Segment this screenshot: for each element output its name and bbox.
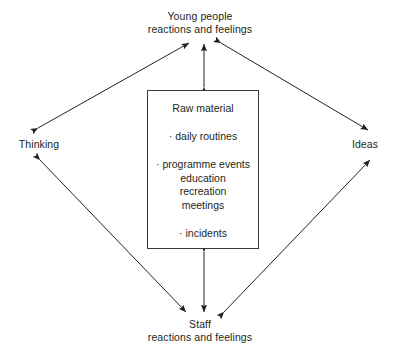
spacer xyxy=(148,212,258,227)
raw-material-item-incidents: · incidents xyxy=(148,227,258,241)
node-young-people-line2: reactions and feelings xyxy=(0,23,400,36)
node-young-people-line1: Young people xyxy=(0,10,400,23)
raw-material-item-daily-routines: · daily routines xyxy=(148,130,258,144)
node-staff-line2: reactions and feelings xyxy=(0,331,400,344)
raw-material-box: Raw material · daily routines · programm… xyxy=(147,90,259,249)
raw-material-item-programme-events: · programme events xyxy=(148,158,258,172)
node-staff: Staff reactions and feelings xyxy=(0,318,400,344)
node-ideas-label: Ideas xyxy=(330,138,400,151)
raw-material-subitem-meetings: meetings xyxy=(148,199,258,213)
raw-material-title: Raw material xyxy=(148,102,258,116)
spacer xyxy=(148,143,258,158)
raw-material-subitem-recreation: recreation xyxy=(148,185,258,199)
bullet-icon: · xyxy=(156,158,160,170)
raw-material-item-label: incidents xyxy=(185,227,226,239)
raw-material-subitem-education: education xyxy=(148,172,258,186)
node-thinking-label: Thinking xyxy=(0,138,78,151)
node-staff-line1: Staff xyxy=(0,318,400,331)
raw-material-item-label: daily routines xyxy=(175,130,237,142)
bullet-icon: · xyxy=(169,130,173,142)
raw-material-item-label: programme events xyxy=(162,158,250,170)
node-thinking: Thinking xyxy=(0,138,78,151)
node-ideas: Ideas xyxy=(330,138,400,151)
bullet-icon: · xyxy=(179,227,183,239)
diagram-canvas: Young people reactions and feelings Thin… xyxy=(0,0,400,360)
node-young-people: Young people reactions and feelings xyxy=(0,10,400,36)
